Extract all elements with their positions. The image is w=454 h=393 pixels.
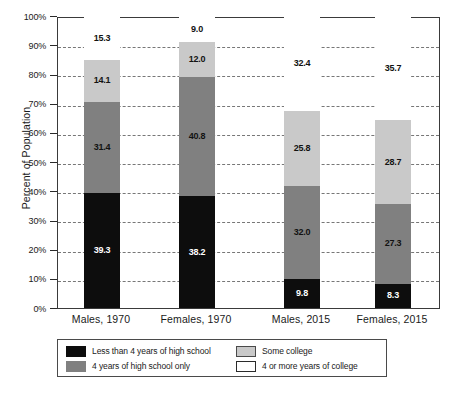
y-axis-tick — [50, 279, 57, 280]
bar-segment: 35.7 — [375, 16, 411, 120]
y-axis-tick-label: 50% — [0, 159, 46, 168]
y-axis-tick-label: 30% — [0, 217, 46, 226]
y-axis-tick-label: 0% — [0, 305, 46, 314]
stacked-bar: 32.425.832.09.8 — [284, 16, 320, 308]
plot-area: 15.314.131.439.39.012.040.838.232.425.83… — [57, 17, 440, 309]
bar-segment-value-label: 25.8 — [294, 144, 311, 153]
legend-label: 4 years of high school only — [92, 362, 190, 371]
legend-swatch — [236, 346, 256, 357]
bar-segment: 9.0 — [179, 16, 215, 42]
bar-segment: 14.1 — [84, 60, 120, 101]
bar-segment-value-label: 32.4 — [294, 59, 311, 68]
bar-segment: 31.4 — [84, 102, 120, 194]
y-axis-tick — [50, 308, 57, 309]
legend-swatch — [66, 361, 86, 372]
bar-segment-value-label: 35.7 — [385, 64, 402, 73]
bar-segment-value-label: 31.4 — [94, 143, 111, 152]
bar-segment: 9.8 — [284, 279, 320, 308]
y-axis-tick — [50, 45, 57, 46]
bar-segment-value-label: 32.0 — [294, 228, 311, 237]
y-axis-tick — [50, 250, 57, 251]
legend-swatch — [66, 346, 86, 357]
y-axis-tick — [50, 133, 57, 134]
legend-item[interactable]: 4 or more years of college — [236, 361, 358, 372]
bar-segment-value-label: 40.8 — [189, 132, 206, 141]
bar-segment-value-label: 8.3 — [387, 291, 399, 300]
chart-legend: Less than 4 years of high schoolSome col… — [57, 339, 387, 377]
legend-swatch — [236, 361, 256, 372]
y-axis-tick-label: 40% — [0, 188, 46, 197]
bar-segment-value-label: 38.2 — [189, 248, 206, 257]
x-axis-tick-label: Females, 1970 — [136, 313, 256, 325]
y-axis-tick-label: 70% — [0, 100, 46, 109]
bar-segment: 38.2 — [179, 196, 215, 308]
y-axis-tick-label: 90% — [0, 42, 46, 51]
bar-segment: 12.0 — [179, 42, 215, 77]
bar-segment: 25.8 — [284, 111, 320, 186]
bar-segment: 32.4 — [284, 16, 320, 111]
bar-segment-value-label: 15.3 — [94, 34, 111, 43]
bar-segment: 40.8 — [179, 77, 215, 196]
y-axis-tick-label: 80% — [0, 71, 46, 80]
y-axis-tick — [50, 191, 57, 192]
y-axis-tick — [50, 75, 57, 76]
legend-label: Some college — [262, 347, 312, 356]
bar-segment-value-label: 12.0 — [189, 55, 206, 64]
bar-segment: 15.3 — [84, 16, 120, 61]
bar-segment: 32.0 — [284, 186, 320, 279]
bar-segment-value-label: 9.0 — [191, 25, 203, 34]
stacked-bar: 15.314.131.439.3 — [84, 16, 120, 308]
legend-item[interactable]: Less than 4 years of high school — [66, 346, 211, 357]
legend-item[interactable]: Some college — [236, 346, 312, 357]
bar-segment: 28.7 — [375, 120, 411, 204]
legend-label: 4 or more years of college — [262, 362, 358, 371]
y-axis-tick-label: 10% — [0, 275, 46, 284]
y-axis-tick-label: 60% — [0, 129, 46, 138]
y-axis-tick — [50, 221, 57, 222]
bar-segment: 27.3 — [375, 204, 411, 284]
bar-segment: 39.3 — [84, 193, 120, 308]
bar-segment-value-label: 28.7 — [385, 158, 402, 167]
bar-segment: 8.3 — [375, 284, 411, 308]
stacked-bar: 35.728.727.38.3 — [375, 16, 411, 308]
legend-item[interactable]: 4 years of high school only — [66, 361, 190, 372]
legend-label: Less than 4 years of high school — [92, 347, 211, 356]
bar-segment-value-label: 27.3 — [385, 239, 402, 248]
bar-segment-value-label: 9.8 — [296, 289, 308, 298]
y-axis-tick-label: 20% — [0, 246, 46, 255]
bar-segment-value-label: 14.1 — [94, 76, 111, 85]
bar-segment-value-label: 39.3 — [94, 246, 111, 255]
y-axis-tick — [50, 162, 57, 163]
y-axis-tick — [50, 104, 57, 105]
stacked-bar: 9.012.040.838.2 — [179, 16, 215, 308]
chart-figure: Percent of Population 0%10%20%30%40%50%6… — [0, 0, 454, 393]
x-axis-tick-label: Females, 2015 — [332, 313, 452, 325]
y-axis-tick — [50, 16, 57, 17]
y-axis-tick-label: 100% — [0, 13, 46, 22]
